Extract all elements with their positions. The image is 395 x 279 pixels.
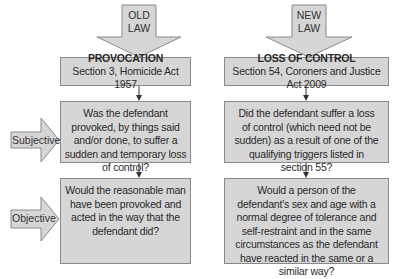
old-label-line2: LAW bbox=[122, 22, 156, 35]
new-objective-question: Would a person of the defendant's sex an… bbox=[233, 184, 380, 279]
loss-of-control-subtitle: Section 54, Coroners and Justice Act 200… bbox=[225, 65, 388, 91]
provocation-subtitle: Section 3, Homicide Act 1957 bbox=[61, 65, 190, 91]
loss-of-control-title: LOSS OF CONTROL bbox=[258, 52, 356, 65]
subjective-label: Subjective bbox=[12, 134, 52, 147]
old-subjective-box: Was the defendant provoked, by things sa… bbox=[60, 101, 191, 163]
new-law-arrow-label: NEW LAW bbox=[292, 9, 326, 35]
provocation-header-box: PROVOCATION Section 3, Homicide Act 1957 bbox=[60, 57, 191, 86]
old-objective-question: Would the reasonable man have been provo… bbox=[64, 184, 187, 238]
objective-label: Objective bbox=[12, 212, 52, 225]
provocation-title: PROVOCATION bbox=[88, 52, 163, 65]
new-label-line1: NEW bbox=[292, 9, 326, 22]
new-label-line2: LAW bbox=[292, 22, 326, 35]
new-objective-box: Would a person of the defendant's sex an… bbox=[224, 178, 389, 264]
old-law-arrow-label: OLD LAW bbox=[122, 9, 156, 35]
new-subjective-box: Did the defendant suffer a loss of contr… bbox=[224, 101, 389, 163]
old-subjective-question: Was the defendant provoked, by things sa… bbox=[64, 107, 187, 175]
new-subjective-question: Did the defendant suffer a loss of contr… bbox=[233, 107, 380, 175]
old-label-line1: OLD bbox=[122, 9, 156, 22]
loss-of-control-header-box: LOSS OF CONTROL Section 54, Coroners and… bbox=[224, 57, 389, 86]
old-objective-box: Would the reasonable man have been provo… bbox=[60, 178, 191, 264]
